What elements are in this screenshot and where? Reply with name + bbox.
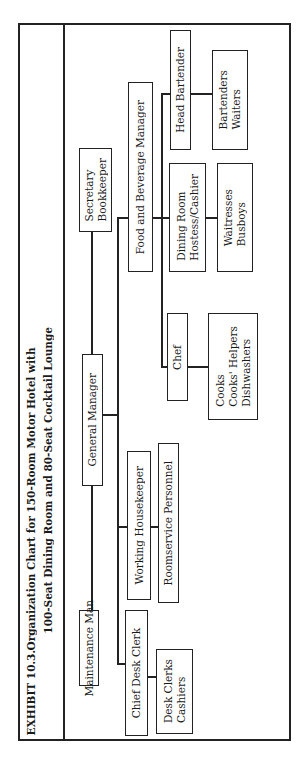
node-desk-clerks-cashiers: Desk Clerks Cashiers [156,649,193,734]
node-secretary-bookkeeper: Secretary Bookkeeper [79,148,112,232]
connector-hb-to-bart [190,93,213,95]
node-food-beverage-manager: Food and Beverage Manager [128,82,153,272]
node-maintenance-man: Maintenance Man [79,610,99,686]
connector-fbm-spine [161,93,163,367]
exhibit-label: EXHIBIT 10.3. [24,650,39,735]
node-chief-desk-clerk: Chief Desk Clerk [125,610,148,736]
node-head-bartender: Head Bartender [170,30,191,150]
connector-main-spine [117,217,119,664]
exhibit-title-line2: 100-Seat Dining Room and 80-Seat Cocktai… [42,327,54,634]
connector-gm-trunk [103,414,118,416]
node-general-manager: General Manager [82,354,103,486]
node-dining-room-hostess: Dining Room Hostess/Cashier [169,163,206,272]
node-bartenders-waiters: Bartenders Waiters [212,50,248,150]
node-waitresses-busboys: Waitresses Busboys [217,163,253,272]
node-chef: Chef [167,313,188,401]
node-working-housekeeper: Working Housekeeper [127,451,151,600]
node-cooks-group: Cooks Cooks' Helpers Dishwashers [208,313,258,420]
title-divider [63,23,65,741]
exhibit-title-line1: Organization Chart for 150-Room Motor Ho… [24,347,39,650]
exhibit-title-line2-wrap: 100-Seat Dining Room and 80-Seat Cocktai… [41,30,61,634]
node-roomservice-personnel: Roomservice Personnel [158,443,179,603]
connector-chef-to-cooks [187,366,209,368]
